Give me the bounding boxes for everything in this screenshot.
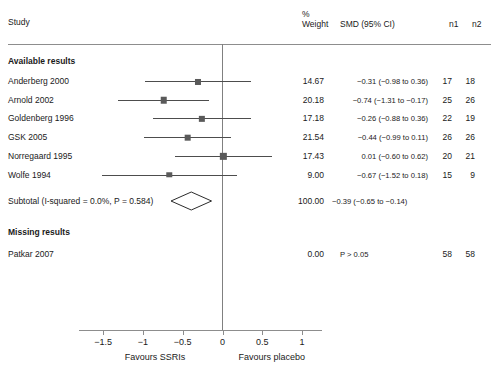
study-n2: 26: [459, 132, 475, 142]
study-estimate: −0.74 (−1.31 to −0.17): [332, 96, 428, 105]
study-n2: 18: [459, 76, 475, 86]
forest-plot: Study % Weight SMD (95% CI) n1 n2 Availa…: [0, 0, 499, 378]
missing-row-n1: 58: [436, 249, 452, 259]
study-weight: 21.54: [266, 132, 324, 142]
axis-tick-label: 0: [220, 337, 225, 347]
study-n2: 26: [459, 95, 475, 105]
column-header-smd: SMD (95% CI): [340, 19, 395, 29]
percent-symbol: %: [302, 9, 310, 19]
group-title-missing: Missing results: [8, 227, 70, 237]
study-weight: 9.00: [266, 170, 324, 180]
missing-row-n2: 58: [459, 249, 475, 259]
study-estimate: −0.44 (−0.99 to 0.11): [332, 133, 428, 142]
column-header-weight: Weight: [302, 19, 328, 29]
study-label: Goldenberg 1996: [8, 113, 74, 123]
axis-tick: [302, 331, 303, 335]
study-n1: 26: [436, 132, 452, 142]
column-header-study: Study: [8, 17, 30, 27]
study-estimate: −0.31 (−0.98 to 0.36): [332, 77, 428, 86]
missing-row-estimate: P > 0.05: [340, 250, 368, 259]
study-label: Wolfe 1994: [8, 170, 51, 180]
missing-row-weight: 0.00: [266, 249, 324, 259]
study-n1: 22: [436, 113, 452, 123]
missing-row-study: Patkar 2007: [8, 249, 54, 259]
study-estimate: 0.01 (−0.60 to 0.62): [332, 152, 428, 161]
column-header-n2: n2: [472, 19, 481, 29]
study-label: GSK 2005: [8, 132, 47, 142]
point-estimate-marker: [195, 78, 201, 84]
study-weight: 17.43: [266, 151, 324, 161]
study-estimate: −0.67 (−1.52 to 0.18): [332, 171, 428, 180]
subtotal-estimate: −0.39 (−0.65 to −0.14): [332, 197, 407, 206]
null-effect-line: [222, 44, 223, 330]
axis-caption-left: Favours SSRIs: [125, 352, 186, 362]
axis-caption-right: Favours placebo: [239, 352, 306, 362]
group-title-available: Available results: [8, 56, 75, 66]
axis-tick-label: −1.5: [94, 337, 112, 347]
axis-tick-label: 1: [299, 337, 304, 347]
study-n2: 9: [459, 170, 475, 180]
study-n1: 25: [436, 95, 452, 105]
study-estimate: −0.26 (−0.88 to 0.36): [332, 114, 428, 123]
study-n1: 15: [436, 170, 452, 180]
point-estimate-marker: [167, 172, 172, 177]
point-estimate-marker: [160, 97, 167, 104]
study-weight: 14.67: [266, 76, 324, 86]
point-estimate-marker: [184, 134, 191, 141]
axis-tick-label: −0.5: [174, 337, 192, 347]
axis-tick: [262, 331, 263, 335]
axis-tick: [103, 331, 104, 335]
axis-tick: [183, 331, 184, 335]
x-axis-line: [79, 330, 321, 331]
study-weight: 20.18: [266, 95, 324, 105]
study-weight: 17.18: [266, 113, 324, 123]
study-n1: 17: [436, 76, 452, 86]
axis-tick-label: −1: [138, 337, 148, 347]
axis-tick-label: 0.5: [256, 337, 269, 347]
study-n2: 21: [459, 151, 475, 161]
study-n2: 19: [459, 113, 475, 123]
header-divider: [8, 44, 491, 45]
summary-diamond: [170, 191, 213, 211]
subtotal-weight: 100.00: [266, 196, 324, 206]
point-estimate-marker: [199, 116, 205, 122]
point-estimate-marker: [220, 153, 226, 159]
subtotal-label: Subtotal (I-squared = 0.0%, P = 0.584): [8, 196, 153, 206]
study-label: Anderberg 2000: [8, 76, 69, 86]
study-label: Arnold 2002: [8, 95, 54, 105]
study-n1: 20: [436, 151, 452, 161]
axis-tick: [143, 331, 144, 335]
study-label: Norregaard 1995: [8, 151, 72, 161]
axis-tick: [223, 331, 224, 335]
column-header-n1: n1: [449, 19, 458, 29]
